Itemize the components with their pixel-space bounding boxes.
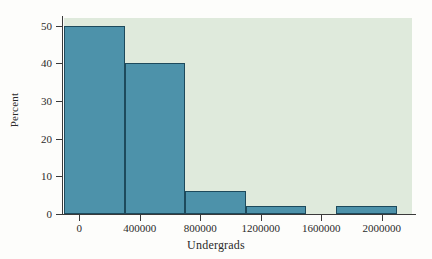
histogram-bar [125, 63, 186, 214]
x-axis-tick-label: 1600000 [286, 222, 356, 234]
histogram-bar [185, 191, 246, 214]
x-axis-tick [200, 215, 201, 221]
x-axis-tick [140, 215, 141, 221]
y-axis-title: Percent [8, 70, 20, 150]
bars-layer [64, 18, 412, 214]
x-axis-tick-label: 800000 [165, 222, 235, 234]
histogram-bar [336, 206, 397, 214]
y-axis-line [62, 16, 63, 215]
x-axis-tick-label: 0 [44, 222, 114, 234]
y-axis-tick [56, 176, 63, 177]
y-axis-tick [56, 214, 63, 215]
y-axis-tick-label: 30 [20, 95, 52, 107]
y-axis-tick-label: 50 [20, 20, 52, 32]
y-axis-tick [56, 101, 63, 102]
plot-area [64, 18, 412, 214]
x-axis-tick [261, 215, 262, 221]
x-axis-tick-label: 400000 [105, 222, 175, 234]
histogram-bar [246, 206, 307, 214]
y-axis-tick-label: 0 [20, 208, 52, 220]
x-axis-tick [382, 215, 383, 221]
y-axis-tick-label: 40 [20, 57, 52, 69]
x-axis-title: Undergrads [0, 238, 432, 253]
x-axis-line [62, 214, 416, 215]
x-axis-tick-label: 2000000 [347, 222, 417, 234]
y-axis-tick [56, 26, 63, 27]
y-axis-tick [56, 63, 63, 64]
histogram-figure: Percent 01020304050 04000008000001200000… [0, 0, 432, 259]
y-axis-tick-label: 10 [20, 170, 52, 182]
y-axis-tick [56, 139, 63, 140]
y-axis-tick-label: 20 [20, 133, 52, 145]
histogram-bar [64, 26, 125, 214]
x-axis-tick [321, 215, 322, 221]
x-axis-tick [79, 215, 80, 221]
x-axis-tick-label: 1200000 [226, 222, 296, 234]
